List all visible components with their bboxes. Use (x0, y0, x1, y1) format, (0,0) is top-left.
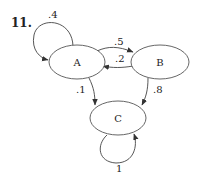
edge-b-a (103, 66, 133, 68)
problem-number: 11. (11, 16, 32, 30)
node-b-label: B (156, 57, 163, 68)
node-c-label: C (114, 113, 122, 124)
edge-a-c (89, 78, 95, 105)
edge-label-a-a: .4 (48, 9, 58, 20)
node-c: C (90, 101, 146, 135)
edge-b-c (142, 78, 148, 105)
node-a-label: A (72, 57, 81, 68)
markov-diagram: 11. .4 .5 .2 .1 .8 1 A B C (0, 0, 198, 178)
edge-c-c (100, 134, 135, 163)
edge-label-a-c: .1 (76, 84, 86, 95)
node-b: B (131, 45, 189, 79)
node-a: A (49, 45, 105, 79)
edge-label-b-c: .8 (153, 84, 163, 95)
edge-a-b (97, 47, 133, 52)
edge-label-c-c: 1 (116, 163, 122, 174)
edge-label-b-a: .2 (115, 53, 125, 64)
edge-label-a-b: .5 (114, 36, 124, 47)
